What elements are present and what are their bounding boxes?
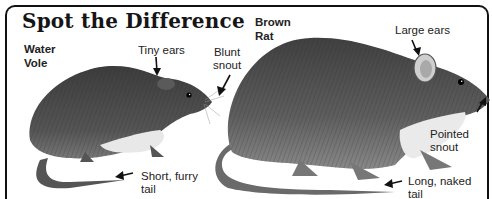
rat-long-naked-tail-label: Long, naked tail	[408, 175, 471, 199]
vole-short-furry-tail-label: Short, furry tail	[141, 170, 198, 196]
rat-large-ears-label: Large ears	[395, 24, 450, 37]
vole-tiny-ears-label: Tiny ears	[138, 44, 185, 57]
rat-pointed-snout-label: Pointed snout	[430, 128, 469, 154]
water-vole-name: Water Vole	[24, 42, 56, 70]
brown-rat-illustration	[215, 38, 490, 195]
brown-rat-name: Brown Rat	[255, 15, 291, 43]
vole-blunt-snout-label: Blunt snout	[213, 46, 241, 72]
